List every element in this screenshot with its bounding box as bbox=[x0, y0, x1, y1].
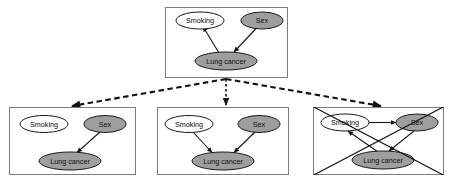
node-sex: Sex bbox=[84, 116, 126, 133]
node-sex: Sex bbox=[238, 116, 280, 133]
node-lung-cancer: Lung cancer bbox=[195, 52, 257, 70]
node-sex: Sex bbox=[241, 12, 283, 29]
node-lung-cancer: Lung cancer bbox=[39, 152, 101, 170]
node-smoking: Smoking bbox=[20, 116, 68, 133]
node-smoking-shape bbox=[176, 12, 224, 29]
node-lung-cancer: Lung cancer bbox=[192, 152, 254, 170]
node-smoking-shape bbox=[165, 116, 213, 133]
node-smoking: Smoking bbox=[176, 12, 224, 29]
panel-top: Smoking Sex Lung cancer bbox=[166, 8, 288, 78]
node-lung-cancer-shape bbox=[39, 152, 101, 170]
node-lung-cancer-shape bbox=[352, 151, 414, 169]
node-sex-shape bbox=[84, 116, 126, 133]
node-lung-cancer-shape bbox=[195, 52, 257, 70]
connector-top-to-bottom-left bbox=[72, 79, 226, 106]
diagram-svg: Smoking Sex Lung cancer bbox=[0, 0, 452, 186]
diagram-canvas: Smoking Sex Lung cancer bbox=[0, 0, 452, 186]
panel-bottom-left: Smoking Sex Lung cancer bbox=[10, 108, 136, 175]
node-sex-shape bbox=[238, 116, 280, 133]
node-smoking: Smoking bbox=[165, 116, 213, 133]
connector-top-to-bottom-right bbox=[226, 79, 381, 106]
node-smoking-shape bbox=[321, 114, 369, 131]
panel-bottom-right: Smoking Sex Lung cancer bbox=[312, 106, 445, 176]
node-lung-cancer: Lung cancer bbox=[352, 151, 414, 169]
connectors bbox=[72, 79, 381, 106]
node-lung-cancer-shape bbox=[192, 152, 254, 170]
panel-bottom-middle: Smoking Sex Lung cancer bbox=[158, 108, 289, 175]
node-smoking-shape bbox=[20, 116, 68, 133]
node-sex-shape bbox=[241, 12, 283, 29]
node-smoking: Smoking bbox=[321, 114, 369, 131]
